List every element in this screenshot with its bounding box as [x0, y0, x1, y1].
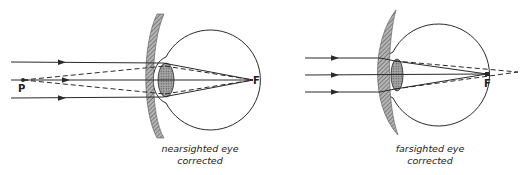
focus-f-label-farsighted: F: [484, 78, 491, 89]
caption-farsighted-line1: farsighted eye: [396, 143, 465, 154]
point-p-marker: [21, 78, 25, 82]
focus-f-label-nearsighted: F: [253, 75, 260, 86]
farsighted-diagram: F farsighted eye corrected: [305, 10, 518, 166]
focus-marker-farsighted: [485, 72, 489, 76]
nearsighted-diagram: P F nearsighted eye corrected: [11, 14, 260, 166]
optics-figure: P F nearsighted eye corrected: [0, 0, 528, 175]
rays-nearsighted: [11, 62, 253, 98]
arrowheads-farsighted: [331, 55, 339, 94]
point-p-label: P: [18, 83, 25, 94]
caption-farsighted-line2: corrected: [407, 155, 453, 166]
caption-nearsighted-line2: corrected: [177, 155, 223, 166]
caption-nearsighted-line1: nearsighted eye: [161, 143, 238, 154]
